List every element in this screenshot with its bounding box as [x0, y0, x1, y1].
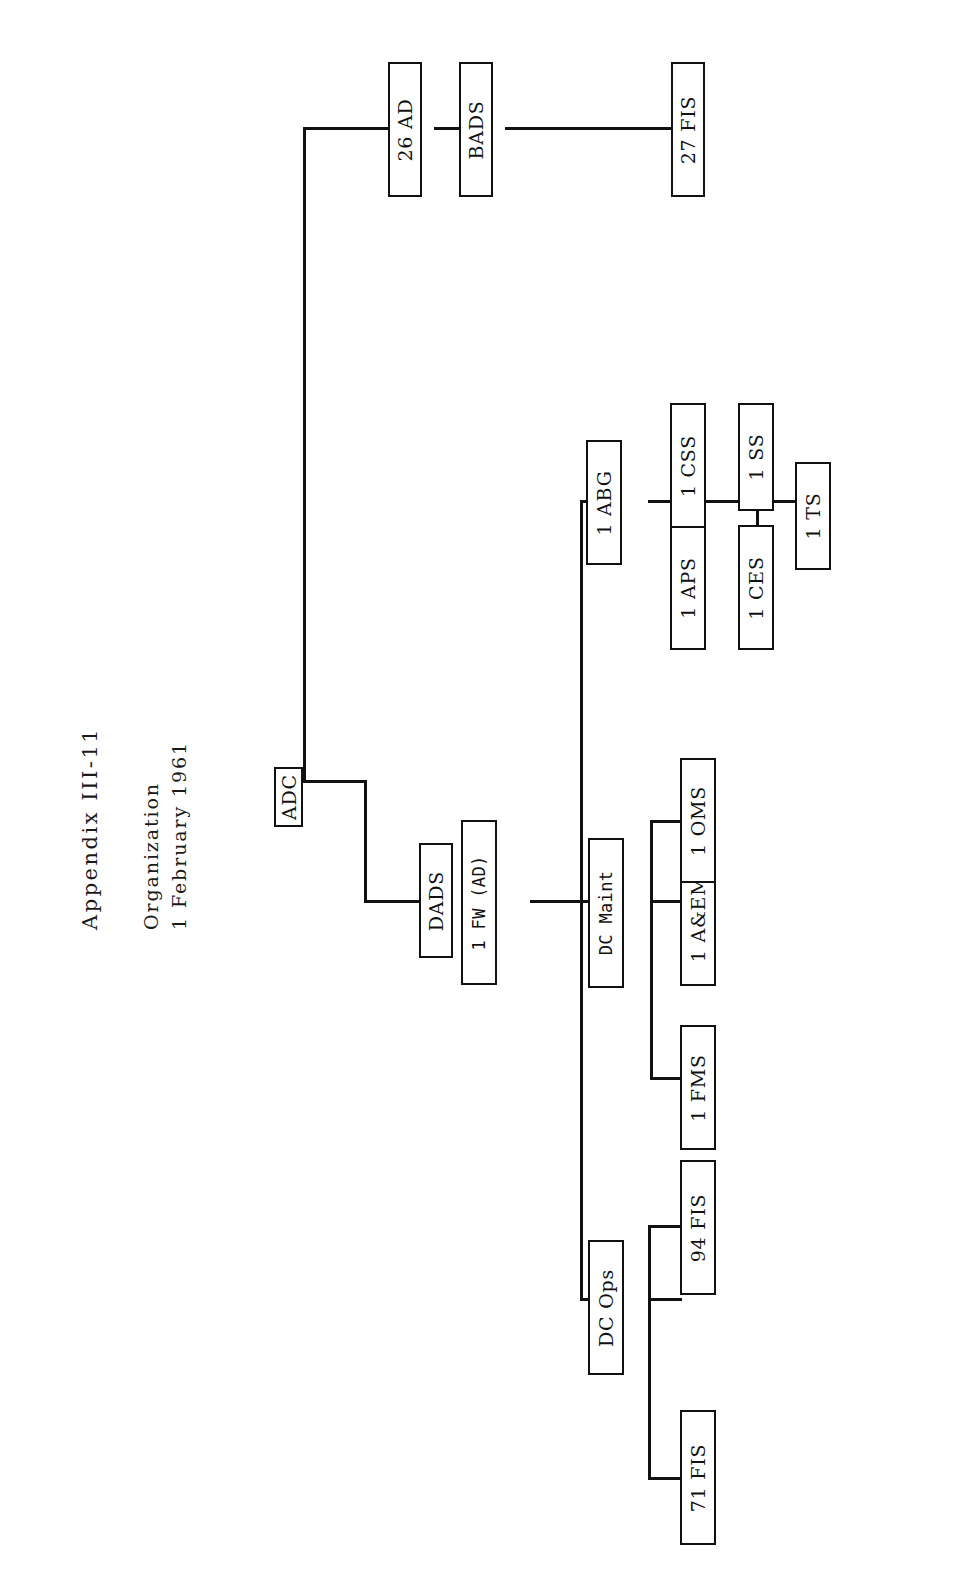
- node-1ss-label: 1 SS: [745, 434, 767, 481]
- edge-dcmaint-vertical: [650, 820, 653, 1080]
- node-dads-label: DADS: [425, 870, 447, 930]
- node-94fis-label: 94 FIS: [687, 1193, 709, 1261]
- edge-dcops-vertical: [648, 1225, 651, 1480]
- node-1aps-label: 1 APS: [677, 557, 699, 618]
- node-adc[interactable]: ADC: [274, 767, 303, 827]
- node-bads-label: BADS: [465, 100, 487, 159]
- page-title: Appendix III-11: [78, 727, 102, 930]
- node-27fis[interactable]: 27 FIS: [671, 62, 705, 197]
- edge-adc-trunk: [303, 127, 306, 782]
- subtitle-organization: Organization: [140, 782, 162, 930]
- subtitle-date: 1 February 1961: [168, 741, 190, 930]
- edge-1fw-spine: [530, 900, 582, 903]
- node-1aps[interactable]: 1 APS: [670, 525, 706, 650]
- node-27fis-label: 27 FIS: [677, 95, 699, 163]
- node-1ces[interactable]: 1 CES: [738, 525, 774, 650]
- edge-26ad-to-bads: [434, 127, 460, 130]
- node-dads[interactable]: DADS: [419, 843, 453, 958]
- node-dc-ops[interactable]: DC Ops: [588, 1240, 624, 1375]
- node-1css[interactable]: 1 CSS: [670, 403, 706, 528]
- node-1fw-ad[interactable]: 1 FW (AD): [461, 820, 497, 985]
- node-1fms[interactable]: 1 FMS: [680, 1025, 716, 1150]
- node-dc-ops-label: DC Ops: [595, 1269, 617, 1347]
- node-71fis-label: 71 FIS: [687, 1443, 709, 1511]
- node-1fw-ad-label: 1 FW (AD): [469, 855, 489, 950]
- edge-dads-drop: [364, 780, 367, 902]
- node-1oms-label: 1 OMS: [687, 786, 709, 856]
- node-adc-label: ADC: [278, 774, 300, 820]
- node-26ad[interactable]: 26 AD: [388, 62, 422, 197]
- node-1css-label: 1 CSS: [677, 434, 699, 496]
- node-1ss[interactable]: 1 SS: [738, 403, 774, 511]
- node-1abg-label: 1 ABG: [593, 470, 615, 535]
- node-26ad-label: 26 AD: [394, 98, 416, 161]
- node-94fis[interactable]: 94 FIS: [680, 1160, 716, 1295]
- edge-bads-to-27fis: [505, 127, 680, 130]
- edge-dads-connect: [364, 900, 419, 903]
- edge-adc-to-26ad: [303, 127, 388, 130]
- node-1ces-label: 1 CES: [745, 556, 767, 619]
- node-dc-maint[interactable]: DC Maint: [588, 838, 624, 988]
- edge-dcops-bus: [648, 1298, 682, 1301]
- node-1abg[interactable]: 1 ABG: [586, 440, 622, 565]
- organization-chart-page: Appendix III-11 Organization 1 February …: [0, 0, 958, 1574]
- node-bads[interactable]: BADS: [459, 62, 493, 197]
- node-1ts-label: 1 TS: [802, 493, 824, 540]
- edge-adc-to-dads-stub: [303, 780, 367, 783]
- node-1ts[interactable]: 1 TS: [795, 462, 831, 570]
- node-71fis[interactable]: 71 FIS: [680, 1410, 716, 1545]
- node-1fms-label: 1 FMS: [687, 1054, 709, 1122]
- node-dc-maint-label: DC Maint: [596, 871, 616, 956]
- node-1oms[interactable]: 1 OMS: [680, 758, 716, 883]
